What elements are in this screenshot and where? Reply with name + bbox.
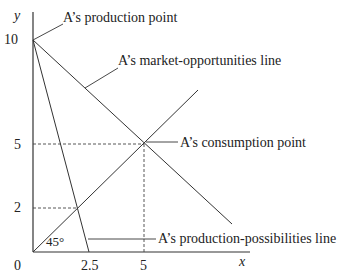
forty-five-degree-line	[33, 90, 198, 252]
production-point-label: A’s production point	[63, 10, 177, 26]
x-tick-2-5: 2.5	[81, 258, 99, 274]
x-axis-label: x	[239, 254, 245, 270]
y-axis-label: y	[14, 8, 20, 24]
consumption-point-label: A’s consumption point	[180, 135, 306, 151]
x-tick-5: 5	[140, 258, 147, 274]
ppf-line	[33, 40, 89, 252]
market-line-label: A’s market-opportunities line	[118, 53, 281, 69]
leader-market-line	[85, 68, 118, 88]
y-tick-10: 10	[4, 32, 18, 48]
y-tick-5: 5	[14, 137, 21, 153]
angle-label: 45°	[46, 234, 64, 250]
y-tick-2: 2	[14, 200, 21, 216]
ppf-line-label: A’s production-possibilities line	[158, 231, 336, 247]
leader-production-point	[33, 24, 63, 40]
origin-label: 0	[14, 258, 21, 274]
